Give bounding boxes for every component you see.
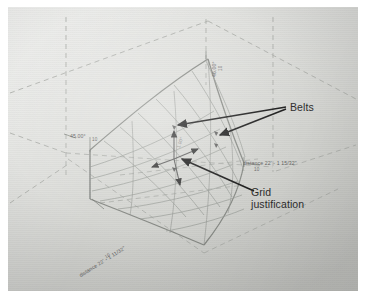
construction-line-far-lower-right [276,145,356,171]
grid-belt-a-2 [90,129,220,179]
construction-line-mid-left [10,133,66,153]
grid-belt-a-1 [90,111,214,167]
surface-rib-2 [130,121,133,215]
surface-rib-4 [204,59,211,245]
dimension-angle-top: 46.00° [211,61,217,77]
screenshot-root: Belts Grid justification 46.00° 10 45.00… [0,0,366,301]
grid-belt-a-5 [118,181,238,209]
surface-ribs [90,59,233,245]
surface-boundary [90,59,244,245]
construction-lines [10,17,356,253]
dimension-distance-right: distance 22' - 1 15/32" [243,160,297,166]
grid-node-arrows [152,131,198,185]
dimension-angle-top-value: 10 [218,66,223,71]
belt-marker-3 [214,143,218,148]
photographed-drawing-sheet: Belts Grid justification 46.00° 10 45.00… [8,7,358,291]
surface-rib-3 [170,91,177,233]
belt-marker-1 [172,125,176,130]
grid-node-arrow-down [174,159,180,185]
construction-line-far-lower-left [10,163,70,203]
dimension-angle-left-value: 10 [92,137,97,142]
dimension-distance-right-value: 10 [254,167,259,172]
construction-line-diagonal-lower-left [68,159,204,253]
belt-marker-2 [214,131,218,136]
grid-node-arrow-left [152,159,174,167]
grid-belt-a-7 [166,209,244,231]
surface-edge-bottom [90,199,204,245]
construction-line-diagonal-upper-left [10,21,208,93]
callout-label-belts: Belts [290,101,314,113]
callout-label-grid-justification-line1: Grid [251,186,271,198]
construction-line-diagonal-upper-right [208,21,356,99]
cad-drawing-canvas [8,7,358,291]
dimension-angle-left: 45.00° [70,133,86,139]
callout-label-grid-justification-line2: justification [251,198,304,210]
grid-belt-b-4 [156,99,232,197]
